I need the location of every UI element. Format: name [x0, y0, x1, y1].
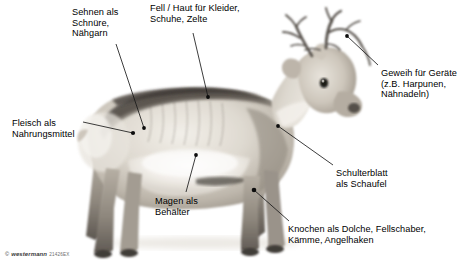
- leader-line-geweih: [347, 36, 378, 65]
- reindeer-anatomy-figure: Sehnen als Schnüre, Nähgarn Fell / Haut …: [0, 0, 467, 272]
- label-schulterblatt-als-schaufel: Schulterblatt als Schaufel: [336, 168, 388, 189]
- label-geweih-fuer-geraete: Geweih für Geräte (z.B. Harpunen, Nähnad…: [381, 68, 457, 100]
- anchor-dot-geweih: [345, 34, 349, 38]
- copyright-symbol: ©: [5, 251, 9, 257]
- figure-code: 21426EX: [49, 252, 69, 257]
- publisher-name: westermann: [11, 251, 47, 257]
- anchor-dot-magen: [194, 153, 198, 157]
- leader-line-fell: [193, 33, 208, 97]
- anchor-dot-fleisch: [131, 131, 135, 135]
- label-fleisch-als-nahrungsmittel: Fleisch als Nahrungsmittel: [12, 118, 75, 139]
- anchor-dot-schulterblatt: [276, 124, 280, 128]
- anchor-dot-sehnen: [142, 126, 146, 130]
- label-fell-haut-fuer-kleider: Fell / Haut für Kleider, Schuhe, Zelte: [150, 3, 240, 24]
- label-knochen-als-dolche: Knochen als Dolche, Fellschaber, Kämme, …: [288, 224, 426, 245]
- anchor-dot-knochen: [252, 188, 257, 193]
- anchor-dot-fell: [206, 95, 210, 99]
- reindeer-photo: [77, 8, 370, 258]
- label-magen-als-behaelter: Magen als Behälter: [155, 196, 198, 217]
- label-sehnen-als-schnuere: Sehnen als Schnüre, Nähgarn: [72, 7, 118, 39]
- copyright-credit: © westermann 21426EX: [5, 251, 69, 257]
